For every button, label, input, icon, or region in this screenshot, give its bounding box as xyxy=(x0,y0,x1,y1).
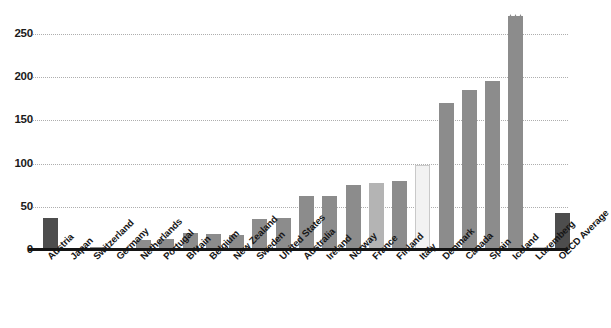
x-axis-labels: AustriaJapanSwitzerlandGermanyNetherland… xyxy=(33,252,568,328)
broken-axis-zigzag-icon xyxy=(508,10,523,17)
y-tick-label: 200 xyxy=(0,71,33,82)
y-tick-label: 150 xyxy=(0,114,33,125)
bar-spain xyxy=(485,81,500,250)
y-tick-label: 50 xyxy=(0,201,33,212)
value-flag-zigzag-icon xyxy=(506,0,525,5)
y-tick-label: 250 xyxy=(0,28,33,39)
y-axis: 050100150200250 xyxy=(0,0,33,328)
bar-iceland xyxy=(508,12,523,250)
bar-denmark xyxy=(439,103,454,250)
bars-group xyxy=(33,8,568,250)
y-tick-label: 100 xyxy=(0,158,33,169)
